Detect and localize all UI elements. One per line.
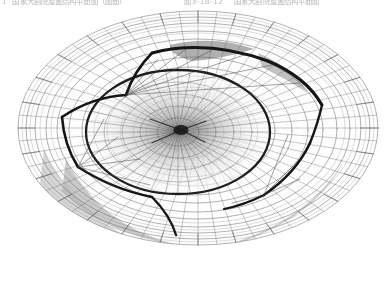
figure-number-label: 图3-18-12 — [184, 0, 223, 9]
roof-structure-drawing — [0, 9, 389, 290]
header-right-title: 国家大剧院屋盖结构平面图 — [234, 0, 319, 9]
inner-hub-assembly — [86, 70, 270, 194]
page-folio-number: 1 — [2, 0, 6, 9]
header-left-title: 国家大剧院屋盖结构平面图 — [12, 0, 97, 9]
figure-caption — [0, 266, 389, 290]
scanned-page: 1 国家大剧院屋盖结构平面图 （图面） 图3-18-12 国家大剧院屋盖结构平面… — [0, 0, 389, 290]
header-left-parenthetical: （图面） — [98, 0, 126, 9]
page-running-header: 1 国家大剧院屋盖结构平面图 （图面） 图3-18-12 国家大剧院屋盖结构平面… — [0, 0, 389, 9]
roof-structure-figure — [0, 9, 389, 290]
